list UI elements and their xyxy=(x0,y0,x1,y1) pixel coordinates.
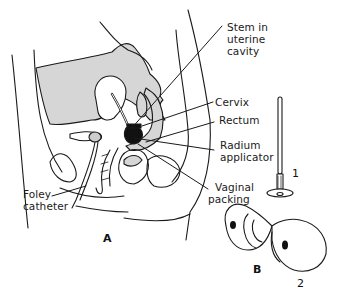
label-radium-applicator: Radium applicator xyxy=(220,139,274,163)
label-radium-line1: Radium xyxy=(220,139,274,151)
buttock-line xyxy=(124,214,190,221)
lobe-shade xyxy=(124,156,142,167)
label-stem-line2: uterine xyxy=(227,33,268,45)
label-vaginal-line2: packing xyxy=(208,193,254,205)
radium-applicator-shape xyxy=(124,126,142,144)
panel-label-a: A xyxy=(103,232,112,245)
label-foley-line2: catheter xyxy=(23,200,68,212)
bladder-bulb xyxy=(89,132,101,142)
front-contour-outer xyxy=(186,10,210,240)
rectum-coil xyxy=(96,150,110,194)
rectum-coil-3 xyxy=(101,154,109,180)
front-contour-inner xyxy=(172,30,188,182)
foley-catheter-line2 xyxy=(80,142,98,200)
label-stem-line1: Stem in xyxy=(227,21,268,33)
label-stem-in-uterine-cavity: Stem in uterine cavity xyxy=(227,21,268,57)
label-rectum: Rectum xyxy=(219,114,260,126)
label-radium-line2: applicator xyxy=(220,151,274,163)
label-vaginal-packing: Vaginal packing xyxy=(208,181,254,205)
label-foley-line1: Foley xyxy=(23,188,68,200)
panel-label-b: B xyxy=(253,263,261,276)
perineum-line-2 xyxy=(76,206,128,212)
label-foley-catheter: Foley catheter xyxy=(23,188,68,212)
label-stem-line3: cavity xyxy=(227,45,268,57)
ovoid-applicator-part2 xyxy=(225,204,326,271)
rectum-coil-2 xyxy=(109,148,118,186)
foley-catheter-line xyxy=(72,142,95,208)
radium-applicator-diagram xyxy=(0,0,340,295)
label-vaginal-line1: Vaginal xyxy=(208,181,254,193)
perineum-line xyxy=(60,188,124,198)
part-number-1: 1 xyxy=(292,167,299,180)
part-number-2: 2 xyxy=(297,277,304,290)
lobe-1 xyxy=(119,150,149,184)
label-cervix: Cervix xyxy=(215,96,249,108)
